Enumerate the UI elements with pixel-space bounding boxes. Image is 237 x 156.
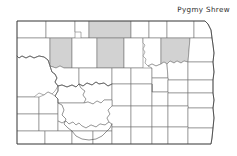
county-steele — [188, 80, 213, 93]
county-dickey — [131, 127, 152, 144]
county-mchenry — [97, 38, 124, 68]
county-mountrail — [50, 38, 72, 68]
county-kidder — [131, 84, 152, 106]
county-ward — [72, 38, 97, 68]
county-pierce — [124, 38, 143, 68]
county-pembina — [194, 21, 212, 38]
county-adams — [45, 131, 72, 144]
county-logan — [131, 106, 152, 127]
county-sheridan — [112, 68, 131, 84]
county-towner — [149, 21, 167, 38]
county-lamoure — [152, 106, 168, 127]
north-dakota-county-map — [0, 0, 237, 156]
county-griggs — [168, 80, 188, 93]
county-grand-forks — [188, 62, 214, 80]
county-golden-valley — [17, 97, 39, 114]
county-divide — [17, 21, 46, 38]
county-hettinger — [72, 131, 93, 144]
county-mcintosh — [112, 127, 131, 144]
county-wells — [131, 68, 152, 84]
county-layer — [17, 21, 214, 144]
county-walsh — [188, 38, 214, 62]
county-stark — [39, 114, 58, 131]
county-benson — [143, 38, 161, 66]
county-slope — [17, 114, 39, 131]
county-bowman — [17, 131, 45, 144]
county-cavalier — [167, 21, 194, 38]
county-burke — [46, 21, 75, 38]
county-sioux — [93, 131, 112, 144]
county-richland-south — [188, 128, 213, 144]
county-richland — [188, 108, 214, 128]
county-bottineau — [89, 21, 131, 38]
county-stutsman-east — [168, 93, 188, 106]
county-sargent-east — [168, 127, 188, 144]
county-ransom — [168, 106, 188, 127]
distribution-map-page: Pygmy Shrew — [0, 0, 237, 156]
county-cass — [188, 93, 214, 108]
county-sargent — [152, 127, 168, 144]
county-rolette — [131, 21, 149, 38]
county-renville — [75, 21, 89, 38]
county-ramsey — [161, 38, 190, 64]
county-foster — [152, 78, 168, 92]
county-burleigh — [112, 84, 131, 106]
county-nelson — [167, 61, 188, 80]
